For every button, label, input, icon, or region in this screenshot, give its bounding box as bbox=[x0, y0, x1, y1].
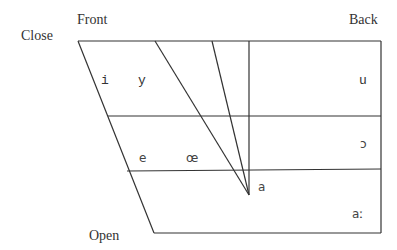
horizontal-dividers bbox=[108, 116, 381, 171]
vowel-y: y bbox=[138, 73, 146, 88]
label-front: Front bbox=[77, 12, 107, 27]
vowel-u: u bbox=[359, 73, 367, 88]
vowel-a: a bbox=[258, 180, 265, 194]
converging-lines bbox=[155, 41, 249, 195]
label-open: Open bbox=[89, 228, 119, 243]
diagonal-line-1 bbox=[155, 41, 249, 195]
open-mid-divider bbox=[127, 169, 381, 171]
vowel-e: e bbox=[139, 151, 146, 165]
diagonal-line-2 bbox=[212, 41, 249, 195]
left-edge bbox=[78, 41, 154, 233]
vowel-i: i bbox=[101, 73, 109, 88]
vowel-oe: œ bbox=[186, 151, 198, 165]
vowel-open-o: ɔ bbox=[360, 137, 367, 151]
vowel-chart: Front Back Close Open i y u e œ ɔ a aː bbox=[0, 0, 397, 250]
chart-outline bbox=[78, 41, 381, 233]
vowel-a-long: aː bbox=[352, 207, 363, 221]
label-back: Back bbox=[349, 12, 378, 27]
label-close: Close bbox=[21, 28, 53, 43]
